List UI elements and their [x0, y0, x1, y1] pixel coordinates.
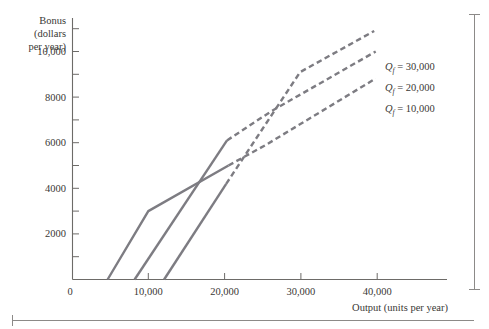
legend-entry-qf-20000: Qf = 20,000 [385, 82, 435, 96]
bonus-output-chart: 2000 4000 6000 8000 10,000 Bonus (dollar… [0, 0, 489, 329]
y-axis-title-line-2: (dollars [34, 28, 66, 40]
legend-eq-30000: = 30,000 [395, 61, 435, 72]
y-tick-label-6000: 6000 [45, 137, 66, 148]
legend-eq-20000: = 20,000 [395, 82, 435, 93]
y-axis-title: Bonus (dollars per year) [28, 15, 66, 53]
figure-container: 2000 4000 6000 8000 10,000 Bonus (dollar… [0, 0, 489, 329]
legend: Qf = 30,000 Qf = 20,000 Qf = 10,000 [385, 61, 435, 117]
legend-entry-qf-30000: Qf = 30,000 [385, 61, 435, 75]
y-tick-label-2000: 2000 [45, 228, 66, 239]
legend-entry-qf-10000: Qf = 10,000 [385, 103, 435, 117]
series-qf-10000-solid [108, 166, 229, 280]
x-tick-label-40000: 40,000 [363, 286, 392, 297]
x-tick-label-20000: 20,000 [210, 286, 239, 297]
x-axis-tick-labels: 0 10,000 20,000 30,000 40,000 [67, 286, 391, 297]
x-tick-label-10000: 10,000 [134, 286, 163, 297]
y-axis-title-line-3: per year) [28, 41, 66, 53]
axes [73, 18, 448, 280]
legend-eq-10000: = 10,000 [395, 103, 435, 114]
series-qf-10000-dashed [229, 79, 376, 166]
x-axis-ticks [148, 273, 377, 280]
series-group [108, 31, 376, 280]
x-axis-title: Output (units per year) [352, 302, 448, 314]
y-axis-tick-labels: 2000 4000 6000 8000 10,000 [37, 46, 66, 239]
y-tick-label-4000: 4000 [45, 183, 66, 194]
x-tick-label-0: 0 [67, 286, 72, 297]
y-tick-label-8000: 8000 [45, 92, 66, 103]
series-qf-30000-dashed [226, 31, 374, 184]
y-axis-title-line-1: Bonus [39, 15, 66, 26]
x-tick-label-30000: 30,000 [286, 286, 315, 297]
y-axis-ticks [73, 29, 80, 257]
series-qf-20000-dashed [227, 52, 376, 141]
